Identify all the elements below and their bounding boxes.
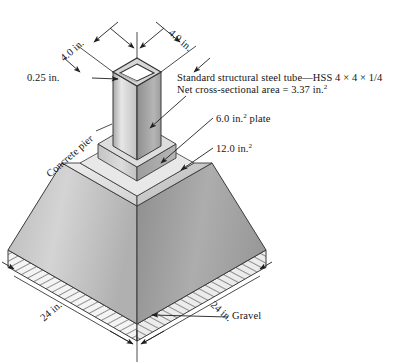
wall-thickness-label: 0.25 in.	[27, 72, 60, 84]
steel-tube-note: Standard structural steel tube—HSS 4 × 4…	[177, 72, 382, 96]
net-area-text: Net cross-sectional area = 3.37 in.	[177, 84, 324, 95]
plate-area-suffix: plate	[247, 113, 271, 124]
steel-tube-column	[113, 58, 161, 160]
plate-area-label: 6.0 in.2 plate	[216, 113, 271, 125]
pier-area-value: 12.0 in.	[216, 143, 249, 154]
dim-right-arrow-inner	[140, 28, 164, 48]
ext-line-right-top	[161, 46, 196, 72]
steel-tube-note-line2: Net cross-sectional area = 3.37 in.2	[177, 84, 382, 96]
ext-line-left-top	[78, 46, 113, 72]
steel-tube-note-line1: Standard structural steel tube—HSS 4 × 4…	[177, 72, 382, 84]
leader-concrete-pier	[96, 124, 112, 131]
pier-area-label: 12.0 in.2	[216, 143, 252, 155]
tube-left-face	[113, 72, 137, 160]
net-area-superscript: 2	[324, 83, 328, 91]
gravel-label: Gravel	[232, 310, 261, 322]
plate-area-value: 6.0 in.	[216, 113, 243, 124]
dim-left-arrow-inner	[110, 28, 134, 48]
pier-area-superscript: 2	[249, 142, 253, 150]
tube-right-face	[137, 72, 161, 160]
dim-right-tick	[194, 58, 210, 72]
figure-canvas: 4.0 in. 4.0 in. 0.25 in. Concrete pier S…	[0, 0, 397, 364]
